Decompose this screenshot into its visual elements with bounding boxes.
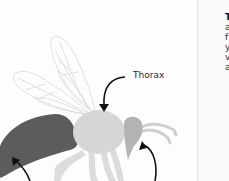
text-line: y [225, 42, 229, 52]
text-line [225, 2, 229, 12]
insect-diagram [0, 0, 198, 181]
text-line: f [225, 32, 229, 42]
wings-icon [13, 36, 95, 114]
head-shape [124, 117, 143, 160]
thorax-shape [73, 110, 125, 154]
antenna-icon [140, 124, 176, 143]
cut-off-text-column: T a f y v a [225, 2, 229, 72]
text-line: v [225, 52, 229, 62]
text-line: a [225, 62, 229, 72]
text-line: a [225, 22, 229, 32]
thorax-label: Thorax [133, 70, 164, 80]
text-line: T [225, 12, 229, 22]
